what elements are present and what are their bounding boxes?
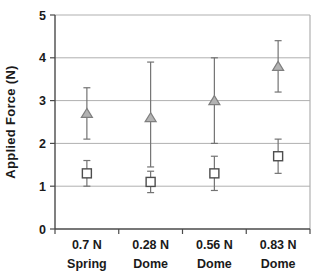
square-marker [82,169,91,178]
x-category-label-line2: Dome [197,257,232,271]
square-marker [210,169,219,178]
triangle-marker [273,61,284,70]
x-category-label-line1: 0.7 N [72,238,102,252]
y-tick-label-0: 0 [39,223,46,237]
y-tick-label-1: 1 [39,180,46,194]
x-category-label-line1: 0.56 N [196,238,233,252]
x-category-label-line2: Dome [133,257,168,271]
square-marker [274,152,283,161]
y-axis-title: Applied Force (N) [3,65,18,178]
x-category-label-line1: 0.83 N [260,238,297,252]
y-tick-label-4: 4 [39,51,46,65]
y-tick-label-2: 2 [39,137,46,151]
triangle-marker [81,108,92,117]
x-category-label-line2: Spring [67,257,107,271]
applied-force-chart: 0123450.7 NSpring0.28 NDome0.56 NDome0.8… [0,0,324,277]
triangle-marker [145,113,156,122]
x-category-label-line2: Dome [261,257,296,271]
force-chart-figure: 0123450.7 NSpring0.28 NDome0.56 NDome0.8… [0,0,324,277]
x-category-label-line1: 0.28 N [132,238,169,252]
y-tick-label-5: 5 [39,9,46,23]
y-tick-label-3: 3 [39,94,46,108]
square-marker [146,177,155,186]
